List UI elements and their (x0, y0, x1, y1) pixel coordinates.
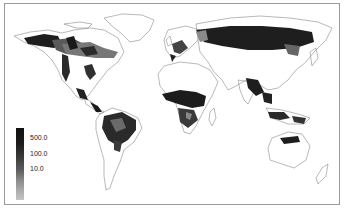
legend-label-10: 10.0 (30, 165, 44, 172)
legend-colorbar (16, 128, 24, 200)
density-patches (24, 26, 314, 152)
world-map (0, 0, 346, 213)
legend-label-100: 100.0 (30, 150, 48, 157)
legend-label-500: 500.0 (30, 134, 48, 141)
